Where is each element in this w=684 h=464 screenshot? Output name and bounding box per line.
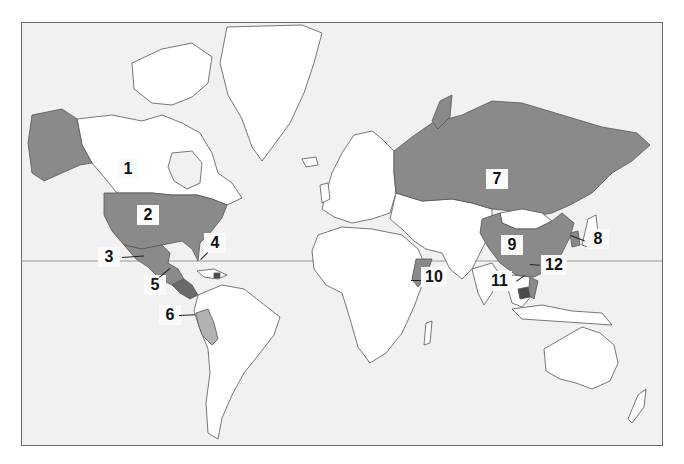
marker-9: 9 (501, 235, 523, 255)
region-russia (394, 101, 650, 217)
europe (322, 131, 396, 223)
south-america (194, 285, 280, 439)
marker-12: 12 (541, 255, 567, 275)
new-zealand (628, 389, 646, 423)
marker-1: 1 (117, 159, 139, 179)
africa (312, 227, 426, 363)
marker-8: 8 (587, 229, 609, 249)
leader-10 (411, 280, 421, 281)
marker-7: 7 (486, 169, 508, 189)
iceland (302, 157, 318, 167)
australia (544, 327, 618, 389)
madagascar (424, 321, 432, 345)
world-map: 1 2 3 4 5 6 7 8 9 10 11 12 (21, 22, 663, 446)
indonesia (512, 305, 612, 325)
marker-2: 2 (137, 205, 159, 225)
region-cambodia (518, 287, 530, 299)
caribbean (197, 269, 227, 279)
marker-3: 3 (98, 247, 120, 267)
uk (320, 183, 330, 203)
arctic-islands (132, 43, 212, 105)
marker-4: 4 (204, 233, 226, 253)
marker-5: 5 (144, 275, 166, 295)
marker-6: 6 (159, 305, 181, 325)
map-canvas (22, 23, 663, 446)
region-haiti (214, 273, 220, 278)
greenland (220, 25, 322, 161)
marker-11: 11 (487, 271, 512, 291)
region-canada (77, 115, 242, 205)
marker-10: 10 (421, 267, 447, 287)
